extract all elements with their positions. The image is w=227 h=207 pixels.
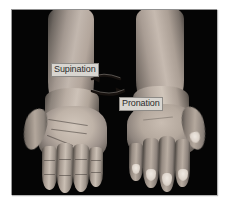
palm-crease — [48, 119, 88, 126]
right-little-finger — [129, 143, 143, 181]
left-index-finger — [42, 146, 57, 190]
right-ring-finger — [143, 138, 159, 188]
finger-crease — [75, 174, 87, 175]
left-little-finger — [89, 147, 103, 187]
right-middle-finger — [159, 136, 175, 192]
supination-label: Supination — [51, 63, 99, 77]
finger-crease — [91, 172, 101, 173]
thumbnail — [189, 131, 201, 144]
fingernail — [132, 164, 140, 174]
finger-crease — [59, 175, 71, 176]
finger-crease — [44, 174, 55, 175]
left-middle-finger — [57, 143, 73, 193]
anatomy-photograph: Supination Pronation — [11, 9, 217, 195]
knuckle-shadow — [143, 116, 173, 120]
palm-crease — [51, 129, 87, 134]
right-index-finger — [175, 139, 190, 187]
fingernail — [162, 173, 172, 186]
fingernail — [178, 169, 188, 181]
finger-crease — [59, 159, 71, 160]
figure-container: Supination Pronation — [0, 0, 227, 207]
left-ring-finger — [73, 144, 89, 192]
fingernail — [146, 169, 156, 181]
finger-crease — [44, 160, 55, 161]
finger-crease — [91, 160, 101, 161]
pronation-label: Pronation — [119, 97, 163, 111]
finger-crease — [75, 159, 87, 160]
